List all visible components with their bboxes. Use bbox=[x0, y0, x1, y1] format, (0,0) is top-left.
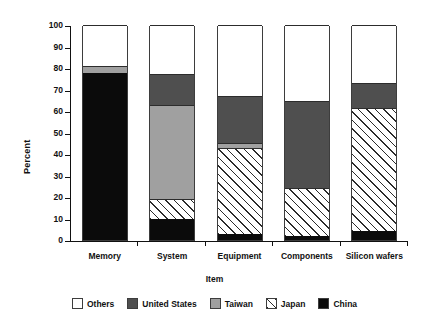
bar-segment-others bbox=[285, 25, 329, 101]
bar-segment-others bbox=[352, 25, 396, 83]
legend-swatch-china-icon bbox=[318, 298, 329, 309]
y-tick-label: 0 bbox=[37, 235, 63, 245]
bar-segment-china bbox=[150, 219, 194, 241]
bar-segment-others bbox=[83, 25, 127, 66]
bar-segment-others bbox=[150, 25, 194, 74]
y-tick-mark bbox=[65, 112, 71, 113]
legend-item-japan[interactable]: Japan bbox=[266, 298, 306, 309]
y-tick-mark bbox=[65, 26, 71, 27]
legend-swatch-taiwan-icon bbox=[210, 298, 221, 309]
y-axis-title-text: Percent bbox=[22, 94, 32, 174]
bar-segment-taiwan bbox=[218, 143, 262, 147]
y-tick-label: 30 bbox=[37, 171, 63, 181]
legend-label: United States bbox=[142, 299, 196, 309]
y-tick-mark bbox=[65, 91, 71, 92]
legend-label: Taiwan bbox=[225, 299, 253, 309]
legend-item-others[interactable]: Others bbox=[72, 298, 114, 309]
bar-segment-china bbox=[352, 231, 396, 240]
y-tick-label: 50 bbox=[37, 128, 63, 138]
bar-segment-taiwan bbox=[83, 66, 127, 74]
bar-segment-us bbox=[352, 83, 396, 108]
y-tick-label: 60 bbox=[37, 106, 63, 116]
y-tick-label: 70 bbox=[37, 85, 63, 95]
x-tick-mark bbox=[272, 241, 273, 246]
y-tick-label: 100 bbox=[37, 20, 63, 30]
x-tick-mark bbox=[407, 241, 408, 246]
bar-segment-others bbox=[218, 25, 262, 96]
bar-segment-taiwan bbox=[150, 105, 194, 200]
y-tick-label: 10 bbox=[37, 214, 63, 224]
y-tick-label: 20 bbox=[37, 192, 63, 202]
y-tick-mark bbox=[65, 177, 71, 178]
bar-segment-japan bbox=[352, 108, 396, 232]
y-axis-title: Percent bbox=[8, 32, 18, 112]
y-tick-mark bbox=[65, 69, 71, 70]
legend-swatch-us-icon bbox=[127, 298, 138, 309]
stacked-bar-chart: Percent 0102030405060708090100 MemorySys… bbox=[0, 0, 429, 336]
bar-segment-japan bbox=[218, 148, 262, 234]
legend-label: Japan bbox=[281, 299, 306, 309]
bar-segment-japan bbox=[150, 199, 194, 218]
y-tick-label: 80 bbox=[37, 63, 63, 73]
x-tick-mark bbox=[137, 241, 138, 246]
y-tick-mark bbox=[65, 220, 71, 221]
chart-legend: OthersUnited StatesTaiwanJapanChina bbox=[0, 298, 429, 309]
bar-segment-us bbox=[285, 101, 329, 188]
legend-label: Others bbox=[87, 299, 114, 309]
legend-item-taiwan[interactable]: Taiwan bbox=[210, 298, 253, 309]
y-tick-label: 40 bbox=[37, 149, 63, 159]
x-tick-mark bbox=[205, 241, 206, 246]
bar-silicon-wafers bbox=[351, 26, 397, 241]
legend-swatch-others-icon bbox=[72, 298, 83, 309]
legend-item-china[interactable]: China bbox=[318, 298, 357, 309]
y-tick-mark bbox=[65, 241, 71, 242]
bar-segment-japan bbox=[285, 188, 329, 235]
y-tick-mark bbox=[65, 155, 71, 156]
bar-equipment bbox=[217, 26, 263, 241]
x-axis-line bbox=[70, 241, 408, 242]
y-tick-mark bbox=[65, 134, 71, 135]
legend-item-us[interactable]: United States bbox=[127, 298, 196, 309]
y-tick-label: 90 bbox=[37, 42, 63, 52]
bar-memory bbox=[82, 26, 128, 241]
bar-segment-china bbox=[83, 73, 127, 240]
bar-segment-china bbox=[285, 236, 329, 240]
legend-swatch-japan-icon bbox=[266, 298, 277, 309]
y-tick-mark bbox=[65, 198, 71, 199]
x-tick-mark bbox=[340, 241, 341, 246]
legend-label: China bbox=[333, 299, 357, 309]
x-axis-title: Item bbox=[0, 274, 429, 284]
y-tick-mark bbox=[65, 48, 71, 49]
x-label-silicon-wafers: Silicon wafers bbox=[324, 251, 424, 261]
bar-components bbox=[284, 26, 330, 241]
bar-segment-us bbox=[218, 96, 262, 143]
bar-segment-china bbox=[218, 234, 262, 240]
bar-segment-us bbox=[150, 74, 194, 104]
plot-area: 0102030405060708090100 MemorySystemEquip… bbox=[71, 26, 408, 241]
bar-system bbox=[149, 26, 195, 241]
